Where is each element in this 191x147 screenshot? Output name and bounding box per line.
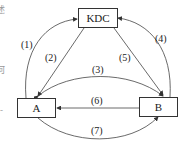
edge-label-1: (1) — [21, 40, 33, 50]
edge-label-6: (6) — [91, 96, 103, 106]
node-a: A — [17, 98, 56, 118]
node-a-label: A — [33, 102, 41, 114]
cropped-text-3: - — [0, 106, 3, 115]
edge-label-2: (2) — [45, 53, 57, 63]
node-kdc: KDC — [78, 8, 118, 28]
edge-label-3: (3) — [92, 65, 104, 75]
edge-label-4: (4) — [155, 34, 167, 44]
edge-label-5: (5) — [119, 53, 131, 63]
node-kdc-label: KDC — [86, 12, 109, 24]
cropped-text-2: 何 — [0, 66, 5, 75]
cropped-text-1: 述 — [0, 6, 5, 15]
edge-3 — [38, 77, 163, 97]
node-b-label: B — [155, 101, 162, 113]
node-b: B — [139, 97, 178, 117]
edge-label-7: (7) — [91, 126, 103, 136]
